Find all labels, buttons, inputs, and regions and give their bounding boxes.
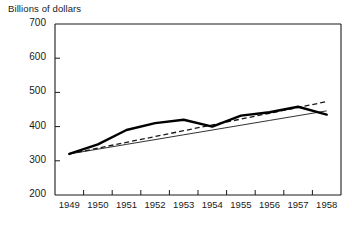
chart-figure: Billions of dollars 200300400500600700 1… [0,0,352,225]
x-tick-label: 1952 [139,199,171,210]
y-tick-label: 500 [16,85,46,96]
series-line-trend-thin [69,111,326,154]
y-tick-label: 700 [16,17,46,28]
x-tick-label: 1956 [254,199,286,210]
y-tick-label: 600 [16,51,46,62]
series-line-actual [69,107,326,154]
x-tick-label: 1955 [225,199,257,210]
x-tick-marks [84,190,313,195]
y-tick-marks [55,58,60,161]
y-tick-label: 200 [16,188,46,199]
x-tick-label: 1958 [311,199,343,210]
x-tick-label: 1950 [82,199,114,210]
x-tick-label: 1949 [53,199,85,210]
x-tick-label: 1951 [111,199,143,210]
axis-frame [55,24,341,195]
x-tick-label: 1953 [168,199,200,210]
x-tick-label: 1957 [282,199,314,210]
plot-area [0,0,352,225]
y-tick-label: 300 [16,154,46,165]
y-tick-label: 400 [16,120,46,131]
x-tick-label: 1954 [196,199,228,210]
